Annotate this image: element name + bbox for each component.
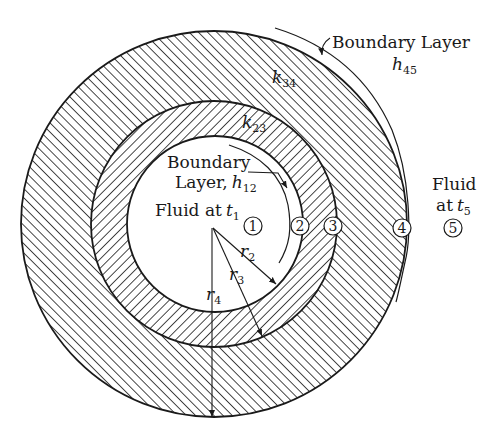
node-5: 5 (444, 219, 462, 237)
inner-fluid-label: Fluid att1 (155, 200, 240, 223)
node-3: 3 (324, 217, 342, 235)
node-4: 4 (393, 219, 411, 237)
outer-boundary-layer-arrow (322, 38, 330, 55)
svg-text:5: 5 (449, 220, 458, 236)
concentric-cylinder-diagram: Boundary Layer h45 k34 k23 Boundary Laye… (0, 0, 498, 436)
svg-text:4: 4 (398, 220, 407, 236)
outer-boundary-layer-label: Boundary Layer (332, 32, 471, 52)
svg-text:2: 2 (296, 218, 305, 234)
svg-text:1: 1 (249, 218, 258, 234)
outer-h-label: h45 (392, 54, 417, 77)
node-1: 1 (244, 217, 262, 235)
outer-fluid-label-line2: att5 (436, 195, 471, 218)
svg-text:3: 3 (329, 218, 338, 234)
node-2: 2 (291, 217, 309, 235)
outer-fluid-label-line1: Fluid (432, 174, 477, 194)
inner-boundary-layer-label-line1: Boundary (167, 152, 251, 172)
